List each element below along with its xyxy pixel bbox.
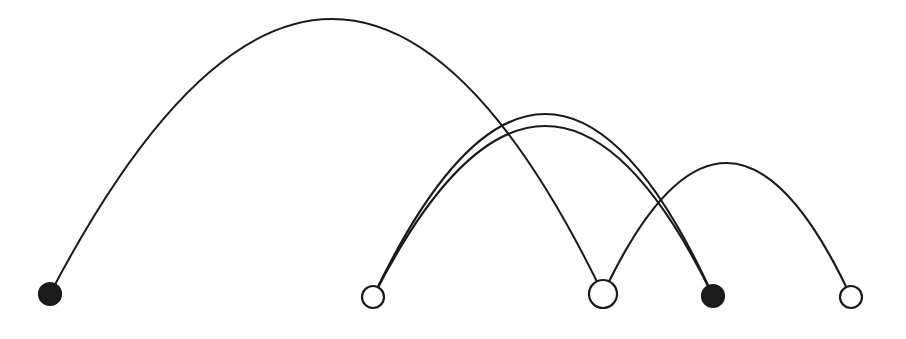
graph-node-n4-filled[interactable] xyxy=(702,285,724,307)
arc-diagram-svg xyxy=(0,0,906,339)
graph-node-n5-open[interactable] xyxy=(840,286,862,308)
graph-node-n2-open[interactable] xyxy=(362,286,384,308)
arc-diagram-canvas xyxy=(0,0,906,339)
graph-node-n3-open[interactable] xyxy=(589,280,617,308)
diagram-background xyxy=(0,0,906,339)
graph-node-n1-filled[interactable] xyxy=(39,283,61,305)
